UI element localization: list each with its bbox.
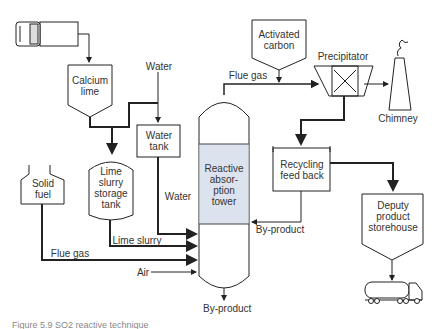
tanker-truck-icon <box>365 282 422 304</box>
smoke-icon <box>397 40 408 56</box>
figure-caption: Figure 5.9 SO2 reactive technique <box>12 320 149 329</box>
precipitator <box>314 66 373 96</box>
deputy-product-storehouse-label: Deputyproductstorehouse <box>363 200 423 233</box>
lime-slurry-tank-label: Limeslurrystoragetank <box>90 166 132 210</box>
precipitator-label: Precipitator <box>315 51 371 62</box>
process-flow-diagram: Calciumlime Water Watertank Limeslurryst… <box>0 0 439 329</box>
tower-label: Reactiveabsor-ptiontower <box>200 163 248 207</box>
byproduct-recycle-label: By-product <box>255 224 305 235</box>
chimney-stack <box>389 58 411 110</box>
activated-carbon-label: Activatedcarbon <box>254 29 304 51</box>
recycling-feed-back-label: Recyclingfeed back <box>274 159 330 181</box>
chimney-label: Chimney <box>375 113 421 124</box>
byproduct-bottom-label: By-product <box>203 303 249 314</box>
water-to-tower-label: Water <box>162 191 194 202</box>
water-tank-label: Watertank <box>139 130 179 152</box>
calcium-lime-label: Calciumlime <box>70 75 110 97</box>
delivery-truck-icon <box>16 22 78 46</box>
solid-fuel-label: Solidfuel <box>22 178 64 200</box>
water-inlet-label: Water <box>144 61 174 72</box>
air-label: Air <box>134 267 152 278</box>
flue-gas-top-label: Flue gas <box>228 70 268 81</box>
lime-slurry-flow-label: Lime slurry <box>112 235 162 246</box>
flue-gas-fuel-label: Flue gas <box>50 248 90 259</box>
